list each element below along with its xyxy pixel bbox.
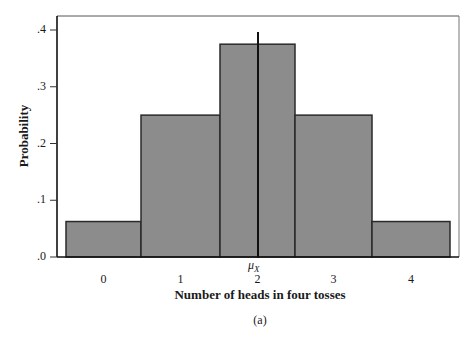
- figure-caption: (a): [240, 313, 280, 328]
- bar-0: [66, 222, 141, 257]
- x-axis-title: Number of heads in four tosses: [120, 287, 400, 303]
- y-tick-label: .1: [22, 192, 46, 207]
- x-tick-label: 4: [401, 272, 421, 287]
- y-ticks: [50, 30, 57, 257]
- y-tick-label: .4: [22, 22, 46, 37]
- x-tick-label: 3: [324, 272, 344, 287]
- y-tick-label: .0: [22, 249, 46, 264]
- bar-1: [141, 115, 220, 257]
- mean-label: μX: [248, 258, 260, 274]
- histogram-chart: .0.1.2.3.4 01234 Probability Number of h…: [0, 0, 475, 345]
- x-tick-label: 1: [171, 272, 191, 287]
- mean-subscript: X: [254, 264, 260, 274]
- y-axis-title: Probability: [16, 96, 32, 176]
- y-tick-label: .3: [22, 79, 46, 94]
- x-tick-label: 0: [94, 272, 114, 287]
- bar-4: [372, 222, 450, 257]
- bar-3: [295, 115, 372, 257]
